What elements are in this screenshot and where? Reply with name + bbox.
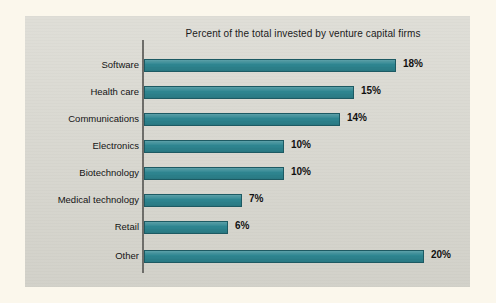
value-label: 15% [361,85,381,96]
bar-row: Health care 15% [25,83,470,103]
plot-area: Software 18% Health care 15% Communicati… [25,16,470,287]
category-label: Electronics [93,140,139,151]
bar-row: Retail 6% [25,218,470,238]
category-label: Medical technology [58,194,139,205]
bar-row: Other 20% [25,247,470,267]
bar-software[interactable] [144,59,396,72]
bar-other[interactable] [144,250,424,263]
value-label: 10% [291,166,311,177]
chart-panel: Percent of the total invested by venture… [25,16,470,287]
value-label: 20% [431,249,451,260]
bar-retail[interactable] [144,221,228,234]
bar-electronics[interactable] [144,140,284,153]
category-label: Health care [90,86,139,97]
value-label: 7% [249,193,263,204]
chart-title: Percent of the total invested by venture… [143,28,463,39]
bar-row: Software 18% [25,56,470,76]
category-label: Retail [115,221,139,232]
category-label: Software [102,59,140,70]
value-label: 18% [403,58,423,69]
category-label: Other [115,250,139,261]
category-label: Communications [68,113,139,124]
bar-communications[interactable] [144,113,340,126]
bar-health-care[interactable] [144,86,354,99]
bar-row: Medical technology 7% [25,191,470,211]
bar-row: Biotechnology 10% [25,164,470,184]
value-label: 10% [291,139,311,150]
value-label: 6% [235,220,249,231]
bar-row: Electronics 10% [25,137,470,157]
bar-biotechnology[interactable] [144,167,284,180]
bar-medical-technology[interactable] [144,194,242,207]
bar-row: Communications 14% [25,110,470,130]
category-label: Biotechnology [79,167,139,178]
value-label: 14% [347,112,367,123]
